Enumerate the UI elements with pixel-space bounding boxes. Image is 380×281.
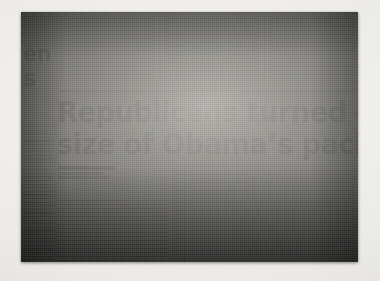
headline-line-1: Republicans turned off by [57,96,352,128]
newspaper-sheet: en s Republicans turned off by size of O… [21,12,358,262]
column-divider [61,16,62,82]
page-headline: Republicans turned off by size of Obama’… [57,92,352,162]
top-column-band [21,12,358,86]
left-rail-column [22,126,54,262]
top-column-1 [68,18,154,80]
photo-backdrop: en s Republicans turned off by size of O… [0,0,380,281]
byline [58,166,114,180]
top-column-3 [269,18,355,80]
top-column-2 [164,18,259,80]
column-divider [184,164,185,262]
body-column-2 [189,166,355,262]
byline-author-name [58,166,114,170]
column-divider [264,16,265,82]
column-divider [55,124,56,262]
byline-subline [58,172,103,175]
newspaper-photograph: en s Republicans turned off by size of O… [21,12,358,262]
headline-line-2: size of Obama’s package [57,128,352,160]
body-column-1 [58,200,168,262]
column-divider [159,16,160,82]
article-body [21,164,358,262]
byline-subline [58,176,110,179]
